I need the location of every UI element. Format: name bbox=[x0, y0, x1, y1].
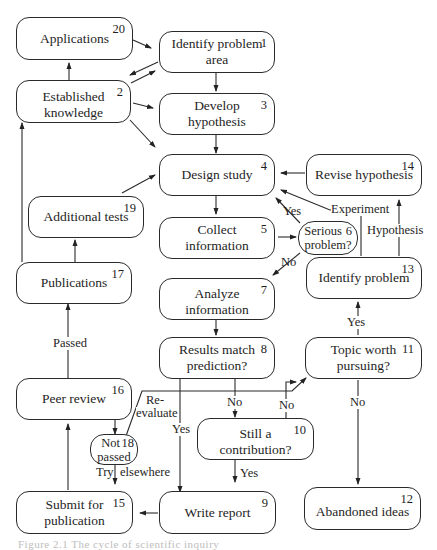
node-publications: 17 Publications bbox=[16, 262, 132, 304]
node-label-line: Submit for bbox=[45, 497, 103, 512]
figure-caption: Figure 2.1 The cycle of scientific inqui… bbox=[18, 538, 219, 550]
node-number: 1 bbox=[261, 35, 267, 51]
node-number: 2 bbox=[117, 84, 123, 100]
edge-label-no-11-12: No bbox=[350, 396, 365, 409]
node-label: Publications bbox=[35, 275, 114, 291]
node-applications: 20 Applications bbox=[16, 17, 133, 60]
edge-label-hypothesis: Hypothesis bbox=[367, 224, 423, 237]
edge-label-passed: Passed bbox=[53, 337, 87, 350]
node-number: 9 bbox=[262, 495, 268, 511]
node-identify-problem: 13 Identify problem bbox=[306, 257, 422, 299]
node-label: Develop hypothesis bbox=[160, 98, 274, 130]
edge-label-no-8-10: No bbox=[227, 396, 242, 409]
node-topic-worth-pursuing: 11 Topic worth pursuing? bbox=[305, 337, 422, 379]
node-number: 7 bbox=[261, 282, 267, 298]
node-label: Serious problem? bbox=[304, 224, 352, 252]
node-design-study: 4 Design study bbox=[159, 154, 275, 196]
node-number: 8 bbox=[261, 341, 267, 357]
node-label: Write report bbox=[179, 505, 257, 521]
node-number: 17 bbox=[112, 266, 125, 282]
node-serious-problem: 6 Serious problem? bbox=[298, 221, 358, 255]
node-label-line: pursuing? bbox=[337, 358, 390, 373]
node-collect-information: 5 Collect information bbox=[159, 217, 275, 259]
edge-label-yes-11-13: Yes bbox=[347, 316, 365, 329]
node-number: 14 bbox=[402, 158, 415, 174]
node-label-line: problem? bbox=[304, 238, 351, 252]
node-revise-hypothesis: 14 Revise hypothesis bbox=[306, 154, 422, 196]
node-number: 5 bbox=[261, 221, 267, 237]
node-number: 19 bbox=[124, 200, 137, 216]
node-label: Established knowledge bbox=[17, 83, 130, 121]
node-label: Identify problem bbox=[312, 270, 415, 286]
node-label: Results match prediction? bbox=[173, 342, 261, 374]
node-abandoned-ideas: 12 Abandoned ideas bbox=[304, 487, 421, 530]
node-label: Identify problem area bbox=[160, 36, 274, 68]
node-label-line: Serious bbox=[304, 224, 342, 238]
node-established-knowledge: 2 Established knowledge bbox=[16, 80, 131, 123]
node-number: 11 bbox=[402, 341, 414, 357]
edge-label-yes-6-4: Yes bbox=[283, 205, 301, 218]
node-label: Additional tests bbox=[37, 209, 134, 225]
node-peer-review: 16 Peer review bbox=[16, 378, 132, 420]
node-additional-tests: 19 Additional tests bbox=[28, 196, 144, 238]
node-number: 13 bbox=[402, 261, 415, 277]
node-number: 18 bbox=[122, 436, 135, 450]
node-label: Applications bbox=[34, 31, 115, 47]
node-identify-problem-area: 1 Identify problem area bbox=[159, 31, 275, 73]
node-label: Submit for publication bbox=[38, 497, 111, 529]
edge-label-no-10-11: No bbox=[279, 399, 294, 412]
node-develop-hypothesis: 3 Develop hypothesis bbox=[159, 93, 275, 135]
node-number: 15 bbox=[113, 495, 126, 511]
node-number: 3 bbox=[261, 97, 267, 113]
node-label: Collect information bbox=[160, 222, 274, 254]
node-still-a-contribution: 10 Still a contribution? bbox=[197, 418, 314, 460]
node-number: 10 bbox=[294, 422, 307, 438]
node-analyze-information: 7 Analyze information bbox=[159, 278, 275, 320]
node-number: 4 bbox=[261, 158, 267, 174]
edge-label-yes-8-9: Yes bbox=[172, 423, 190, 436]
edge-label-no-6-7: No bbox=[281, 256, 296, 269]
node-results-match-prediction: 8 Results match prediction? bbox=[159, 337, 275, 379]
edge-label-yes-10-9: Yes bbox=[240, 467, 258, 480]
node-label-line: publication bbox=[44, 513, 105, 528]
node-label-line: Not bbox=[101, 436, 120, 450]
node-not-passed: 18 Not passed bbox=[90, 434, 138, 465]
node-label: Peer review bbox=[36, 391, 112, 407]
node-label-line: Topic worth bbox=[331, 342, 396, 357]
node-write-report: 9 Write report bbox=[159, 491, 276, 534]
edge-label-elsewhere: elsewhere bbox=[120, 466, 170, 479]
node-number: 6 bbox=[346, 224, 352, 238]
edge-label-experiment: Experiment bbox=[331, 203, 389, 216]
node-number: 16 bbox=[112, 382, 125, 398]
node-label-line: prediction? bbox=[187, 358, 248, 373]
node-label-line: Results match bbox=[179, 342, 255, 357]
node-submit-for-publication: 15 Submit for publication bbox=[16, 491, 133, 534]
node-label-line: passed bbox=[97, 450, 130, 464]
node-label: Design study bbox=[176, 167, 259, 183]
node-label: Topic worth pursuing? bbox=[325, 342, 402, 374]
node-number: 12 bbox=[401, 491, 414, 507]
edge-label-try: Try bbox=[96, 466, 114, 479]
node-number: 20 bbox=[113, 21, 126, 37]
edge-label-reevaluate-line2: evaluate bbox=[136, 407, 178, 420]
node-label: Abandoned ideas bbox=[310, 498, 415, 520]
node-label: Analyze information bbox=[160, 280, 274, 318]
